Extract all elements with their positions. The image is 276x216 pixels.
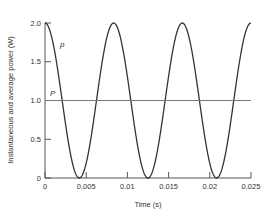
y-axis-label: Instantaneous and average power (W) (6, 36, 15, 164)
x-tick-label: 0.005 (77, 182, 96, 191)
p-curve-label: p (59, 40, 65, 49)
y-tick-label: 0 (37, 174, 41, 183)
series-lines (45, 23, 251, 178)
y-tick-label: 1.5 (31, 57, 41, 66)
x-tick-label: 0.01 (120, 182, 135, 191)
power-chart: 00.51.01.52.000.0050.010.0150.020.025 p … (0, 0, 276, 216)
x-tick-label: 0 (43, 182, 47, 191)
y-tick-label: 0.5 (31, 135, 41, 144)
y-tick-label: 2.0 (31, 19, 41, 28)
x-axis-label: Time (s) (134, 200, 162, 209)
y-tick-label: 1.0 (31, 96, 41, 105)
x-tick-label: 0.015 (159, 182, 178, 191)
x-tick-label: 0.02 (202, 182, 217, 191)
ticks: 00.51.01.52.000.0050.010.0150.020.025 (31, 19, 261, 192)
x-tick-label: 0.025 (242, 182, 261, 191)
P-line-label: P (50, 89, 56, 98)
